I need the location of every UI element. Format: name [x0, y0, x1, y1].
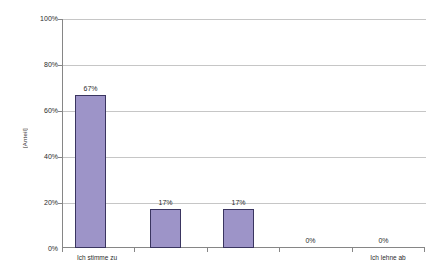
x-tick-mark-0	[62, 248, 63, 252]
bar-value-label-3: 17%	[223, 199, 254, 207]
bar-value-label-1: 67%	[75, 85, 106, 93]
bar-value-label-4: 0%	[295, 237, 326, 245]
y-axis-tick-labels: 100% 80% 60% 40% 20% 0%	[30, 0, 58, 276]
gridline-60	[63, 111, 426, 112]
y-tick-label-80: 80%	[30, 61, 58, 68]
x-tick-mark-4	[352, 248, 353, 252]
x-category-label-first: Ich stimme zu	[58, 254, 136, 262]
y-tick-label-60: 60%	[30, 107, 58, 114]
x-tick-mark-3	[279, 248, 280, 252]
bar-value-label-2: 17%	[150, 199, 181, 207]
gridline-100	[63, 19, 426, 20]
y-tick-label-40: 40%	[30, 153, 58, 160]
gridline-40	[63, 157, 426, 158]
y-tick-label-0: 0%	[30, 245, 58, 252]
x-tick-mark-1	[134, 248, 135, 252]
y-tick-label-20: 20%	[30, 199, 58, 206]
bar-value-label-5: 0%	[368, 237, 399, 245]
gridline-80	[63, 65, 426, 66]
bar-chart: [Anteil] 100% 80% 60% 40% 20% 0% 67% 17%…	[0, 0, 444, 276]
bar-category-1[interactable]	[75, 95, 106, 248]
bar-category-2[interactable]	[150, 209, 181, 248]
y-tick-label-100: 100%	[30, 15, 58, 22]
bar-category-3[interactable]	[223, 209, 254, 248]
x-tick-mark-5	[424, 248, 425, 252]
x-tick-mark-2	[207, 248, 208, 252]
x-category-label-last: Ich lehne ab	[349, 254, 427, 262]
